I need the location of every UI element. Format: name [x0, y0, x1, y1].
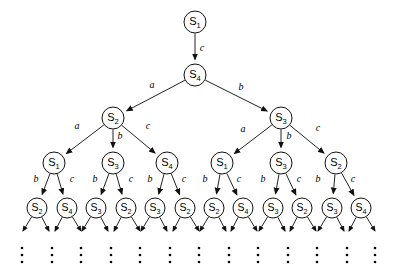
state-node-S3[interactable]: S3: [322, 198, 342, 218]
node-label-subscript: 3: [157, 207, 161, 215]
ellipsis-dot: [51, 247, 54, 250]
ellipsis-dot: [374, 261, 377, 264]
state-node-S1[interactable]: S1: [184, 11, 206, 33]
state-node-S4[interactable]: S4: [156, 152, 178, 174]
state-node-S2[interactable]: S2: [175, 198, 195, 218]
state-node-S1[interactable]: S1: [43, 152, 65, 174]
edge-n6-to-l4: [159, 174, 164, 194]
edge-n1-to-n3: [205, 80, 267, 111]
vertical-ellipsis: [257, 247, 260, 264]
edge-label-c: c: [200, 42, 205, 53]
node-label-subscript: 2: [338, 161, 342, 170]
vertical-ellipsis: [21, 247, 24, 264]
vertical-ellipsis: [169, 247, 172, 264]
leaf-stub-arrow: [290, 217, 297, 231]
edge-label-b: b: [93, 173, 98, 184]
edge-label-b: b: [203, 173, 208, 184]
state-node-S2[interactable]: S2: [102, 107, 124, 129]
edge-label-c: c: [129, 173, 134, 184]
edge-label-b: b: [316, 173, 321, 184]
state-node-S2[interactable]: S2: [292, 198, 312, 218]
edge-n4-to-l0: [42, 174, 50, 195]
ellipsis-dot: [228, 254, 231, 257]
edge-n2-to-n4: [66, 125, 104, 154]
vertical-ellipsis: [374, 247, 377, 264]
leaf-stub-arrow: [42, 217, 49, 231]
edge-label-a: a: [75, 120, 80, 131]
ellipsis-dot: [198, 247, 201, 250]
ellipsis-dot: [51, 254, 54, 257]
edge-label-c: c: [237, 173, 242, 184]
leaf-stub-arrow: [248, 217, 257, 231]
edge-label-c: c: [316, 122, 321, 133]
node-label-subscript: 3: [98, 207, 102, 215]
ellipsis-dot: [198, 261, 201, 264]
state-node-S4[interactable]: S4: [351, 198, 371, 218]
node-label-subscript: 3: [334, 207, 338, 215]
leaf-stub-arrow: [366, 217, 375, 231]
leaf-stub-arrow: [141, 217, 150, 231]
node-label-subscript: 4: [69, 207, 73, 215]
ellipsis-dot: [346, 261, 349, 264]
edge-n7-to-l6: [217, 174, 220, 193]
edge-n1-to-n2: [127, 80, 185, 110]
ellipsis-dot: [80, 254, 83, 257]
ellipsis-dot: [139, 254, 142, 257]
node-label-subscript: 2: [128, 207, 132, 215]
leaf-stub-arrow: [337, 217, 344, 231]
state-node-S4[interactable]: S4: [57, 198, 77, 218]
edge-n6-to-l5: [171, 174, 179, 195]
leaf-stub-arrows-layer: [23, 217, 375, 231]
ellipsis-dot: [21, 261, 24, 264]
state-node-S3[interactable]: S3: [86, 198, 106, 218]
ellipsis-dot: [169, 261, 172, 264]
state-node-S3[interactable]: S3: [263, 198, 283, 218]
ellipsis-dot: [110, 247, 113, 250]
leaf-stub-arrow: [131, 217, 140, 231]
edge-n8-to-l8: [276, 174, 279, 193]
edge-label-b: b: [239, 81, 244, 92]
state-node-S3[interactable]: S3: [145, 198, 165, 218]
state-node-S3[interactable]: S3: [270, 152, 292, 174]
ellipsis-dot: [80, 261, 83, 264]
leaf-stub-arrow: [190, 217, 199, 231]
ellipsis-dot: [110, 254, 113, 257]
state-node-S4[interactable]: S4: [184, 64, 206, 86]
ellipsis-dot: [228, 247, 231, 250]
ellipsis-dot: [257, 247, 260, 250]
node-label-subscript: 3: [283, 116, 287, 125]
ellipsis-dot: [287, 247, 290, 250]
node-label-subscript: 1: [224, 161, 228, 170]
state-node-S2[interactable]: S2: [27, 198, 47, 218]
vertical-ellipsis: [198, 247, 201, 264]
edge-label-c: c: [351, 173, 356, 184]
state-node-S2[interactable]: S2: [325, 152, 347, 174]
ellipsis-dot: [228, 261, 231, 264]
vertical-ellipsis: [346, 247, 349, 264]
node-label-subscript: 4: [245, 207, 249, 215]
ellipsis-dot: [257, 254, 260, 257]
edge-n8-to-l9: [286, 173, 296, 194]
node-label-subscript: 1: [56, 161, 60, 170]
vertical-ellipsis: [110, 247, 113, 264]
edge-label-c: c: [146, 120, 151, 131]
vertical-ellipsis: [51, 247, 54, 264]
edge-n5-to-l2: [101, 174, 109, 195]
state-node-S2[interactable]: S2: [204, 198, 224, 218]
ellipsis-dot: [51, 261, 54, 264]
state-node-S1[interactable]: S1: [211, 152, 233, 174]
ellipsis-dot: [374, 247, 377, 250]
state-node-S3[interactable]: S3: [270, 107, 292, 129]
leaf-stub-arrow: [173, 217, 180, 231]
state-node-S4[interactable]: S4: [233, 198, 253, 218]
node-label-subscript: 4: [363, 207, 367, 215]
leaf-stub-arrow: [55, 217, 62, 231]
state-node-S2[interactable]: S2: [116, 198, 136, 218]
ellipsis-dot: [287, 261, 290, 264]
ellipsis-dot: [198, 254, 201, 257]
state-node-S3[interactable]: S3: [102, 152, 124, 174]
ellipsis-dot: [21, 247, 24, 250]
ellipsis-dot: [316, 254, 319, 257]
tree-diagram-canvas: S1S4S2S3S1S3S4S1S3S2S2S4S3S2S3S2S2S4S3S2…: [0, 0, 393, 273]
node-label-subscript: 3: [115, 161, 119, 170]
